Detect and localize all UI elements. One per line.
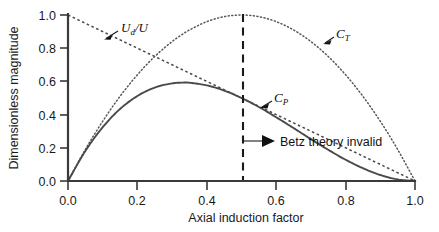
- y-tick-label: 0.4: [39, 109, 56, 123]
- chart-figure: 0.0 0.2 0.4 0.6 0.8 1.0 0.0 0.2 0.4: [0, 0, 439, 232]
- x-axis-title: Axial induction factor: [188, 211, 303, 225]
- betz-theory-chart: 0.0 0.2 0.4 0.6 0.8 1.0 0.0 0.2 0.4: [0, 0, 439, 232]
- betz-annotation-text: Betz theory invalid: [280, 135, 382, 149]
- label-ud-over-u: Ud/U: [121, 20, 150, 37]
- x-tick-label: 0.4: [198, 194, 215, 208]
- x-tick-label: 0.2: [128, 194, 145, 208]
- y-axis-title: Dimensionless magnitude: [7, 26, 21, 169]
- x-tick-label: 0.0: [59, 194, 76, 208]
- x-tick-label: 0.6: [267, 194, 284, 208]
- y-tick-label: 0.2: [39, 142, 56, 156]
- y-tick-label: 1.0: [39, 9, 56, 23]
- y-tick-label: 0.0: [39, 175, 56, 189]
- x-tick-label: 1.0: [406, 194, 423, 208]
- y-tick-label: 0.6: [39, 75, 56, 89]
- x-tick-label: 0.8: [337, 194, 354, 208]
- y-tick-label: 0.8: [39, 42, 56, 56]
